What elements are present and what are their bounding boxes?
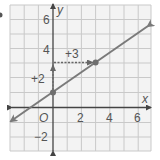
rise-label: +2 xyxy=(31,72,45,86)
y-tick-label-4: 4 xyxy=(43,43,50,57)
part-marker-fragment xyxy=(0,13,3,18)
x-axis-label: x xyxy=(141,92,149,106)
coordinate-graph: y x O 6 4 −2 2 4 6 +3 +2 xyxy=(0,0,160,160)
origin-label: O xyxy=(39,111,48,125)
point-y-intercept xyxy=(50,90,56,96)
point-3-3 xyxy=(93,60,99,66)
y-tick-label-6: 6 xyxy=(43,13,50,27)
y-axis-label: y xyxy=(56,3,64,17)
x-tick-label-2: 2 xyxy=(77,111,84,125)
run-label: +3 xyxy=(65,47,79,61)
x-tick-label-6: 6 xyxy=(134,111,141,125)
x-tick-label-4: 4 xyxy=(106,111,113,125)
y-tick-label-neg2: −2 xyxy=(34,130,48,144)
